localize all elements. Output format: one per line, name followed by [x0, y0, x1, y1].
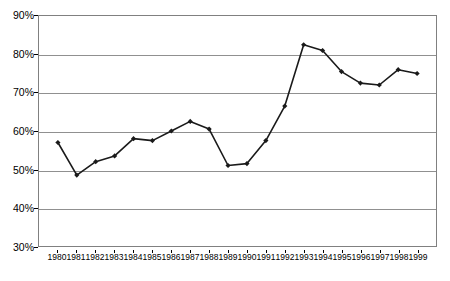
y-tick-mark — [34, 54, 38, 55]
y-tick-label: 40% — [2, 203, 34, 213]
data-line — [58, 45, 417, 175]
y-tick-label: 60% — [2, 126, 34, 136]
x-tick-mark — [228, 250, 229, 253]
y-tick-label: 90% — [2, 10, 34, 20]
x-tick-mark — [418, 250, 419, 253]
x-tick-mark — [304, 250, 305, 253]
y-tick-mark — [34, 247, 38, 248]
x-tick-mark — [380, 250, 381, 253]
x-tick-mark — [361, 250, 362, 253]
x-tick-mark — [247, 250, 248, 253]
y-tick-label: 70% — [2, 87, 34, 97]
y-tick-mark — [34, 15, 38, 16]
data-point-marker — [415, 71, 420, 76]
y-tick-mark — [34, 92, 38, 93]
data-point-marker — [301, 42, 306, 47]
y-tick-mark — [34, 208, 38, 209]
x-tick-mark — [133, 250, 134, 253]
x-tick-mark — [266, 250, 267, 253]
line-chart: 30%40%50%60%70%80%90% 198019811982198319… — [0, 0, 450, 281]
plot-area — [38, 15, 437, 247]
x-tick-mark — [152, 250, 153, 253]
x-tick-mark — [285, 250, 286, 253]
series-line — [39, 16, 436, 246]
x-tick-mark — [209, 250, 210, 253]
x-tick-label: 1999 — [403, 253, 433, 262]
x-tick-mark — [171, 250, 172, 253]
x-tick-mark — [57, 250, 58, 253]
x-tick-mark — [114, 250, 115, 253]
y-axis: 30%40%50%60%70%80%90% — [0, 0, 34, 281]
y-tick-mark — [34, 170, 38, 171]
y-tick-label: 80% — [2, 49, 34, 59]
y-tick-mark — [34, 131, 38, 132]
x-tick-mark — [342, 250, 343, 253]
x-tick-mark — [399, 250, 400, 253]
x-tick-mark — [76, 250, 77, 253]
x-tick-mark — [323, 250, 324, 253]
x-tick-mark — [190, 250, 191, 253]
x-axis: 1980198119821983198419851986198719881989… — [0, 250, 450, 270]
y-tick-label: 50% — [2, 165, 34, 175]
x-tick-mark — [95, 250, 96, 253]
